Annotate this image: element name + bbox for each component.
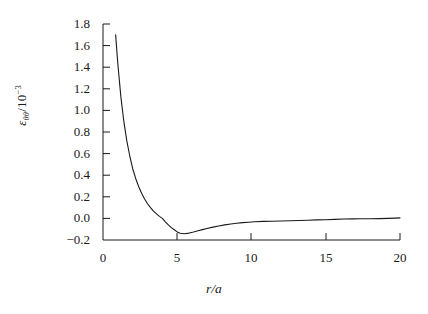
chart-figure: εθθ/10−3 1.8 1.6 1.4 1.2 1.0 0.8 0.6 0.4… (0, 0, 428, 314)
axis-spines (103, 24, 400, 240)
data-series-hoop-strain (116, 35, 400, 234)
plot-svg (0, 0, 428, 314)
